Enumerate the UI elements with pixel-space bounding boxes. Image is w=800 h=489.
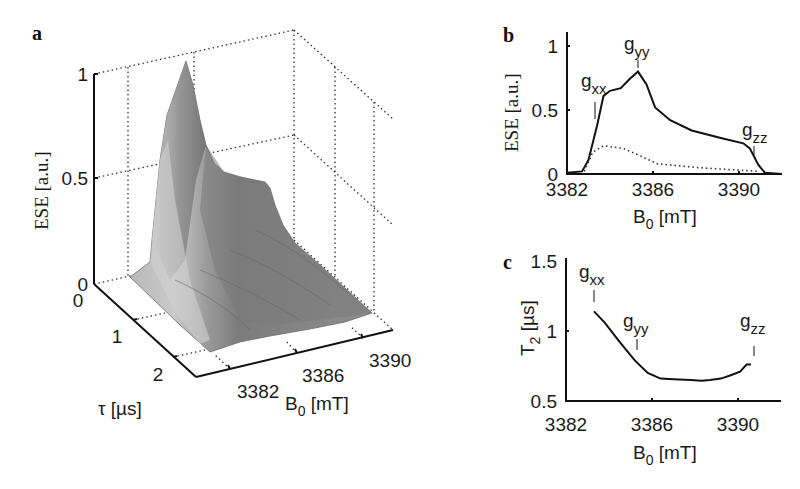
z-axis-label: ESE [a.u.] bbox=[31, 151, 52, 230]
svg-text:gzz: gzz bbox=[742, 119, 768, 146]
b0-tick-3382: 3382 bbox=[237, 381, 279, 402]
figure: a bbox=[0, 0, 800, 489]
tau-tick-1: 1 bbox=[112, 326, 123, 347]
tau-tick-2: 2 bbox=[153, 364, 164, 385]
tau-axis-label: τ [µs] bbox=[98, 398, 142, 419]
b0-tick-3386: 3386 bbox=[302, 365, 344, 386]
b-x-tick-3390: 3390 bbox=[718, 179, 760, 200]
panel-letter-a: a bbox=[32, 22, 42, 44]
panel-a: a bbox=[31, 22, 411, 419]
svg-text:gyy: gyy bbox=[623, 310, 649, 337]
b-y-tick-0.5: 0.5 bbox=[532, 100, 558, 121]
b-x-tick-3382: 3382 bbox=[546, 179, 588, 200]
svg-text:gyy: gyy bbox=[624, 33, 650, 60]
c-annotation-gxx: gxx bbox=[579, 261, 605, 302]
c-x-tick-3386: 3386 bbox=[631, 414, 673, 435]
c-x-axis-label: B0 [mT] bbox=[633, 442, 697, 468]
svg-text:gzz: gzz bbox=[740, 310, 766, 337]
c-x-tick-3390: 3390 bbox=[717, 414, 759, 435]
b0-tick-3390: 3390 bbox=[369, 350, 411, 371]
z-tick-1: 1 bbox=[77, 64, 88, 85]
c-y-tick-1: 1 bbox=[546, 321, 557, 342]
c-y-tick-0.5: 0.5 bbox=[531, 391, 557, 412]
panel-a-surface bbox=[130, 61, 372, 352]
svg-text:gxx: gxx bbox=[579, 261, 605, 288]
b-y-axis-label: ESE [a.u.] bbox=[501, 73, 522, 152]
b0-axis-label-a: B0 [mT] bbox=[285, 393, 349, 419]
panel-letter-c: c bbox=[503, 251, 512, 273]
panel-letter-b: b bbox=[503, 24, 514, 46]
c-y-axis-label: T2 [µs] bbox=[517, 300, 543, 356]
c-annotation-gyy: gyy bbox=[623, 310, 649, 350]
b-annotation-gxx: gxx bbox=[581, 70, 607, 119]
panel-b: b 1 0.5 0 3382 3386 3390 ESE [a.u.] B0 [… bbox=[501, 24, 782, 232]
svg-text:gxx: gxx bbox=[581, 70, 607, 97]
z-tick-0.5: 0.5 bbox=[62, 168, 88, 189]
panel-c: c 1.5 1 0.5 3382 3386 3390 T2 [µs] B0 [m… bbox=[503, 251, 781, 468]
c-x-tick-3382: 3382 bbox=[545, 414, 587, 435]
b-x-tick-3386: 3386 bbox=[632, 179, 674, 200]
b-annotation-gzz: gzz bbox=[742, 119, 768, 155]
b-annotation-gyy: gyy bbox=[624, 33, 650, 68]
b-series-dotted bbox=[584, 146, 758, 172]
tau-tick-0: 0 bbox=[73, 290, 84, 311]
b-x-axis-label: B0 [mT] bbox=[633, 206, 697, 232]
c-annotation-gzz: gzz bbox=[740, 310, 766, 356]
c-series-t2 bbox=[594, 311, 751, 380]
b-y-tick-1: 1 bbox=[547, 36, 558, 57]
c-y-tick-1.5: 1.5 bbox=[531, 251, 557, 272]
